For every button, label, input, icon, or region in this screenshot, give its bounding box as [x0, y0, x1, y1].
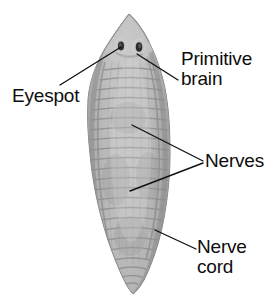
label-eyespot: Eyespot [12, 86, 79, 106]
label-nerves: Nerves [205, 151, 264, 171]
leader-line-nerve-cord [155, 230, 196, 249]
midline-highlight [111, 58, 151, 242]
planarian-nervous-system-figure: Eyespot Primitive brain Nerves Nerve cor… [0, 0, 269, 303]
label-primitive-brain: Primitive brain [181, 49, 252, 89]
eyespot-right-highlight [138, 44, 141, 49]
label-nerve-cord: Nerve cord [197, 237, 247, 277]
